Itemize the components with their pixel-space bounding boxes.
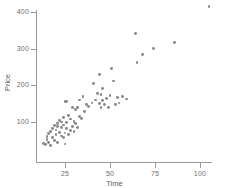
- data-point: [125, 98, 128, 101]
- data-point: [101, 99, 104, 102]
- data-point: [64, 143, 67, 146]
- data-point: [92, 82, 95, 85]
- data-point: [118, 102, 121, 105]
- data-point: [83, 110, 86, 113]
- data-point: [56, 125, 59, 128]
- y-axis-line: [36, 10, 37, 162]
- data-point: [71, 125, 74, 128]
- data-point: [65, 121, 68, 124]
- data-point: [69, 129, 72, 132]
- data-point: [65, 127, 68, 130]
- data-point: [74, 122, 77, 125]
- y-tick-200: [31, 85, 36, 86]
- data-point: [98, 102, 101, 105]
- x-tick-25: [65, 163, 66, 168]
- data-point: [134, 32, 137, 35]
- y-axis-title: Price: [3, 61, 12, 105]
- data-point: [100, 93, 103, 96]
- x-tick-50: [110, 163, 111, 168]
- data-point: [109, 94, 112, 97]
- x-tick-label-100: 100: [188, 170, 212, 177]
- data-point: [51, 127, 54, 130]
- data-point: [62, 116, 65, 119]
- data-point: [100, 106, 103, 109]
- y-tick-100: [31, 122, 36, 123]
- x-tick-label-75: 75: [143, 170, 167, 177]
- data-point: [107, 106, 110, 109]
- data-point: [121, 95, 124, 98]
- data-point: [55, 133, 58, 136]
- y-tick-label-400: 400: [7, 8, 29, 15]
- data-point: [82, 95, 85, 98]
- data-point: [78, 99, 81, 102]
- data-point: [53, 139, 56, 142]
- data-point: [62, 124, 65, 127]
- data-point: [73, 130, 76, 133]
- data-point: [64, 132, 67, 135]
- data-point: [110, 67, 113, 70]
- data-point: [67, 114, 70, 117]
- data-point: [91, 102, 94, 105]
- data-point: [103, 103, 106, 106]
- data-point: [173, 41, 176, 44]
- data-point: [105, 97, 108, 100]
- data-point: [44, 143, 47, 146]
- data-point: [76, 126, 79, 129]
- data-point: [114, 103, 117, 106]
- data-point: [208, 5, 211, 8]
- x-axis-title: Time: [0, 179, 229, 188]
- data-point: [116, 96, 119, 99]
- data-point: [62, 136, 65, 139]
- y-tick-label-100: 100: [7, 118, 29, 125]
- data-point: [49, 130, 52, 133]
- data-point: [60, 126, 63, 129]
- y-tick-label-300: 300: [7, 45, 29, 52]
- x-tick-75: [155, 163, 156, 168]
- data-point: [46, 135, 49, 138]
- data-point: [69, 118, 72, 121]
- data-point: [101, 87, 104, 90]
- data-point: [87, 105, 90, 108]
- y-tick-300: [31, 49, 36, 50]
- data-point: [94, 99, 97, 102]
- x-tick-100: [200, 163, 201, 168]
- data-point: [47, 141, 50, 144]
- x-axis-line: [36, 162, 212, 163]
- data-point: [60, 121, 63, 124]
- data-point: [58, 131, 61, 134]
- data-point: [55, 129, 58, 132]
- x-tick-label-50: 50: [98, 170, 122, 177]
- data-point: [65, 100, 68, 103]
- data-point: [96, 92, 99, 95]
- data-point: [76, 106, 79, 109]
- data-point: [141, 53, 144, 56]
- scatter-plot-figure: 100200300400 255075100 Price Time: [0, 0, 229, 188]
- y-tick-400: [31, 12, 36, 13]
- data-point: [56, 141, 59, 144]
- data-point: [98, 73, 101, 76]
- data-point: [47, 132, 50, 135]
- data-point: [80, 117, 83, 120]
- x-tick-label-25: 25: [53, 170, 77, 177]
- plot-area: 100200300400 255075100 Price Time: [0, 0, 229, 188]
- data-point: [67, 133, 70, 136]
- data-point: [56, 122, 59, 125]
- data-point: [136, 61, 139, 64]
- data-point: [49, 144, 52, 147]
- data-point: [71, 106, 74, 109]
- data-point: [53, 124, 56, 127]
- data-point: [152, 47, 155, 50]
- data-point: [112, 80, 115, 83]
